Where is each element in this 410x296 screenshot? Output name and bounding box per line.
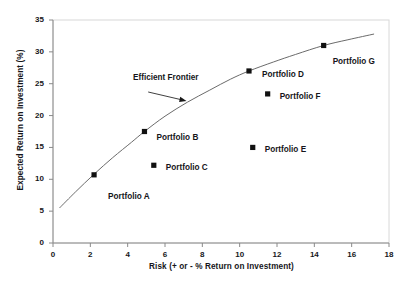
data-marker	[250, 145, 255, 150]
efficient-frontier-curve	[60, 34, 375, 208]
plot-axes	[49, 20, 389, 247]
annotation-arrow	[148, 92, 186, 102]
data-marker	[151, 163, 156, 168]
data-marker	[246, 68, 251, 73]
data-markers	[91, 43, 326, 178]
data-marker	[91, 172, 96, 177]
plot-area	[0, 0, 410, 296]
data-marker	[321, 43, 326, 48]
efficient-frontier-chart: Expected Return on Investment (%) Risk (…	[0, 0, 410, 296]
data-marker	[265, 91, 270, 96]
data-marker	[142, 129, 147, 134]
